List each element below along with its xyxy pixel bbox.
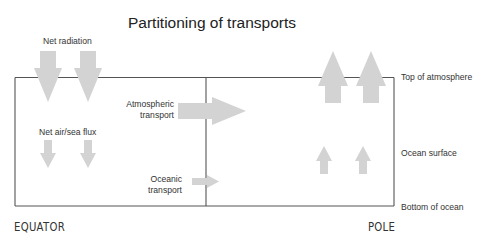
pole-label: POLE [368,220,395,234]
atmospheric-transport-label: Atmospheric transport [126,99,174,120]
oceanic-transport-line2: transport [138,185,182,196]
atmospheric-transport-arrow-icon [178,97,246,125]
up-arrow-icon [318,51,348,103]
net-radiation-label: Net radiation [43,36,92,47]
down-arrow-icon [74,51,102,102]
up-arrow-icon [355,146,371,174]
atmospheric-transport-line1: Atmospheric [126,99,174,110]
down-arrow-icon [34,51,62,102]
down-arrow-icon [80,140,96,168]
equator-label: EQUATOR [14,220,65,234]
oceanic-transport-line1: Oceanic [138,174,182,185]
net-radiation-arrows [34,51,102,102]
net-air-sea-flux-label: Net air/sea flux [39,127,96,138]
diagram-title: Partitioning of transports [128,14,296,32]
top-of-atmosphere-label: Top of atmosphere [401,72,472,83]
down-arrow-icon [40,140,56,168]
pole-ocean-surface-arrows [316,146,371,174]
ocean-surface-label: Ocean surface [401,148,457,159]
up-arrow-icon [356,51,386,103]
bottom-of-ocean-label: Bottom of ocean [401,202,464,213]
oceanic-transport-label: Oceanic transport [138,174,182,195]
net-air-sea-flux-arrows [40,140,96,168]
atmospheric-transport-line2: transport [126,110,174,121]
up-arrow-icon [316,146,332,174]
